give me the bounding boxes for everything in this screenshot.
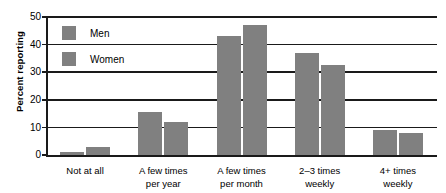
bar-women-3 — [321, 65, 345, 155]
bar-men-3 — [295, 53, 319, 155]
x-axis-tick-label: A few timesper month — [202, 164, 280, 190]
x-axis-tick-label: 2–3 timesweekly — [281, 164, 359, 190]
gridline — [46, 99, 437, 101]
legend-label: Women — [90, 54, 124, 65]
bar-chart: Percent reporting 01020304050 MenWomen N… — [0, 0, 446, 193]
bar-women-1 — [164, 122, 188, 155]
legend-item-women: Women — [62, 46, 172, 72]
y-axis-tick-mark — [42, 154, 46, 156]
bar-men-1 — [138, 112, 162, 155]
chart-legend: MenWomen — [62, 20, 172, 72]
y-axis-tick-mark — [42, 71, 46, 73]
legend-swatch-icon — [62, 52, 76, 66]
bar-men-2 — [217, 36, 241, 155]
y-axis-tick-label: 20 — [19, 95, 41, 105]
y-axis-tick-mark — [42, 44, 46, 46]
bar-women-0 — [86, 147, 110, 155]
gridline — [46, 16, 437, 18]
x-axis-tick-label: Not at all — [46, 164, 124, 177]
y-axis-tick-label: 0 — [19, 150, 41, 160]
x-axis-tick-label: A few timesper year — [124, 164, 202, 190]
y-axis-tick-label: 40 — [19, 40, 41, 50]
y-axis-tick-mark — [42, 127, 46, 129]
legend-label: Men — [90, 28, 109, 39]
y-axis-tick-label: 50 — [19, 12, 41, 22]
x-axis-tick-label: 4+ timesweekly — [359, 164, 437, 190]
y-axis-tick-labels: 01020304050 — [17, 0, 41, 193]
legend-swatch-icon — [62, 26, 76, 40]
y-axis-line — [46, 17, 48, 157]
x-axis-line — [46, 155, 437, 157]
y-axis-tick-mark — [42, 16, 46, 18]
y-axis-tick-label: 10 — [19, 123, 41, 133]
y-axis-tick-mark — [42, 99, 46, 101]
y-axis-tick-label: 30 — [19, 67, 41, 77]
bar-women-2 — [243, 25, 267, 155]
gridline — [46, 127, 437, 129]
bar-women-4 — [399, 133, 423, 155]
bar-men-4 — [373, 130, 397, 155]
legend-item-men: Men — [62, 20, 172, 46]
bar-men-0 — [60, 152, 84, 155]
x-axis-tick-labels: Not at allA few timesper yearA few times… — [46, 160, 437, 193]
